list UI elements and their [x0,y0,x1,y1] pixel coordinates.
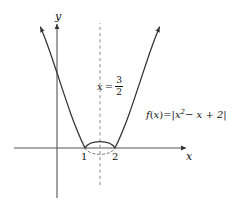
asymptote-variable: x [97,82,103,92]
function-remaining-terms: − x + 2 [185,109,223,120]
asymptote-fraction: 3 2 [115,76,123,97]
math-figure: y x 1 2 x = 3 2 f(x)=|x2− x + 2| [0,0,233,217]
x-tick-label-2: 2 [112,152,118,162]
asymptote-equals: = [105,82,113,92]
asymptote-label: x = 3 2 [97,76,123,97]
fraction-numerator: 3 [115,76,123,86]
x-tick-label-1: 1 [81,152,87,162]
function-equation-label: f(x)=|x2− x + 2| [146,109,227,120]
function-bar-close: | [223,109,226,120]
fraction-denominator: 2 [115,87,123,97]
y-axis-label: y [55,11,61,22]
curve-left-branch [41,27,86,148]
x-axis-label: x [186,151,192,162]
function-equals: = [163,109,171,120]
